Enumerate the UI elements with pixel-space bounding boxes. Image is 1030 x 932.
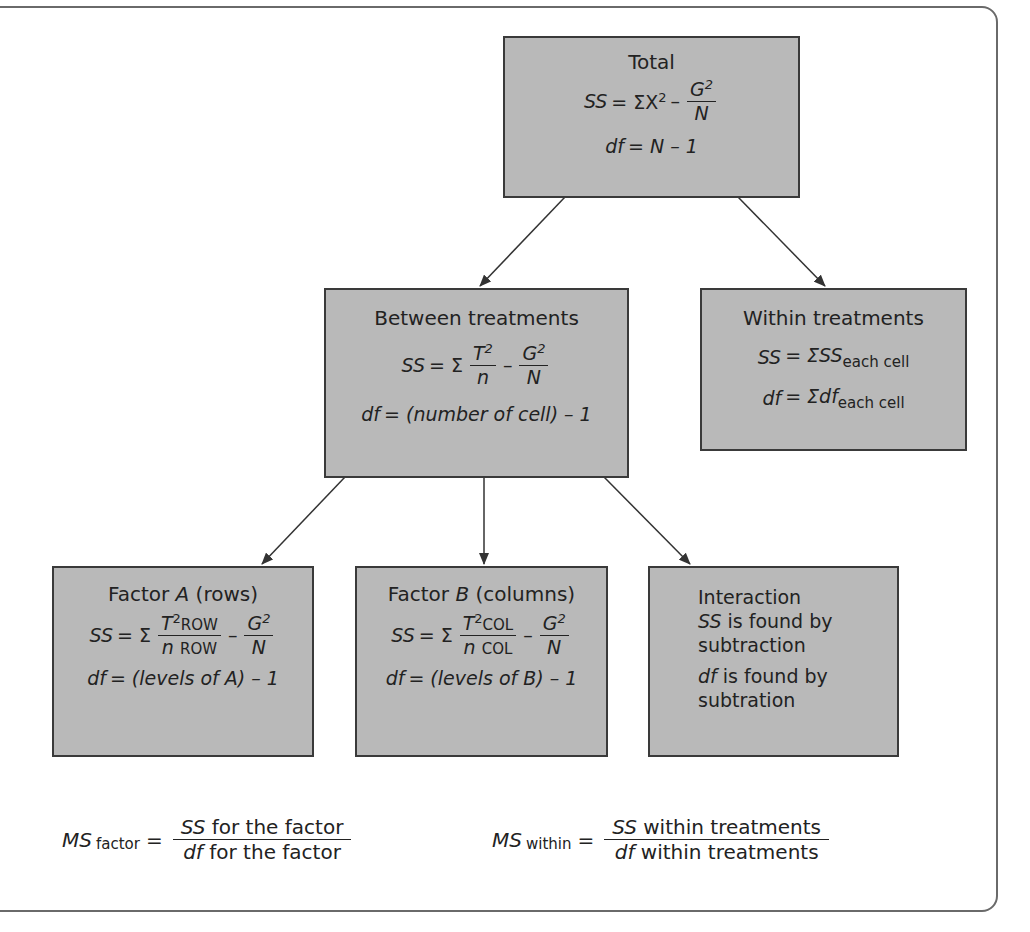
fraction: T2 n [470,342,496,389]
node-total: Total SS = ΣX2 – G2 N df = N – 1 [503,36,800,198]
node-factor-b: Factor B (columns) SS = Σ T2COL n COL – … [355,566,608,757]
node-title: Between treatments [326,306,627,330]
df-formula: df = (levels of A) – 1 [54,667,312,689]
node-title: Total [505,50,798,74]
fraction: G2 N [687,78,716,125]
ss-formula: SS = ΣX2 – G2 N [505,78,798,125]
arrow-total-between [480,197,565,286]
arrow-between-factor-a [262,477,345,564]
arrow-between-interaction [604,477,690,564]
ss-formula: SS = Σ T2COL n COL – G2 N [357,612,606,659]
df-formula: df = (number of cell) – 1 [326,403,627,425]
ss-formula: SS = ΣSSeach cell [702,344,965,371]
arrow-total-within [738,197,825,286]
fraction: T2COL n COL [460,612,517,659]
node-interaction: Interaction SS is found by subtraction d… [648,566,899,757]
fraction: SS for the factor df for the factor [173,816,352,864]
fraction: SS within treatments df within treatment… [604,816,829,864]
node-title: Factor B (columns) [357,582,606,606]
df-formula: df = N – 1 [505,135,798,157]
ms-factor-formula: MS factor = SS for the factor df for the… [62,816,354,864]
node-title: Within treatments [702,306,965,330]
fraction: G2 N [540,612,569,659]
df-formula: df = (levels of B) – 1 [357,667,606,689]
node-within-treatments: Within treatments SS = ΣSSeach cell df =… [700,288,967,451]
node-factor-a: Factor A (rows) SS = Σ T2ROW n ROW – G2 … [52,566,314,757]
node-between-treatments: Between treatments SS = Σ T2 n – G2 N df… [324,288,629,478]
ss-formula: SS = Σ T2ROW n ROW – G2 N [54,612,312,659]
fraction: G2 N [519,342,548,389]
node-title: Factor A (rows) [54,582,312,606]
df-formula: df = Σdfeach cell [702,385,965,412]
ss-formula: SS = Σ T2 n – G2 N [326,342,627,389]
ms-within-formula: MS within = SS within treatments df with… [492,816,832,864]
fraction: G2 N [244,612,273,659]
fraction: T2ROW n ROW [158,612,221,659]
